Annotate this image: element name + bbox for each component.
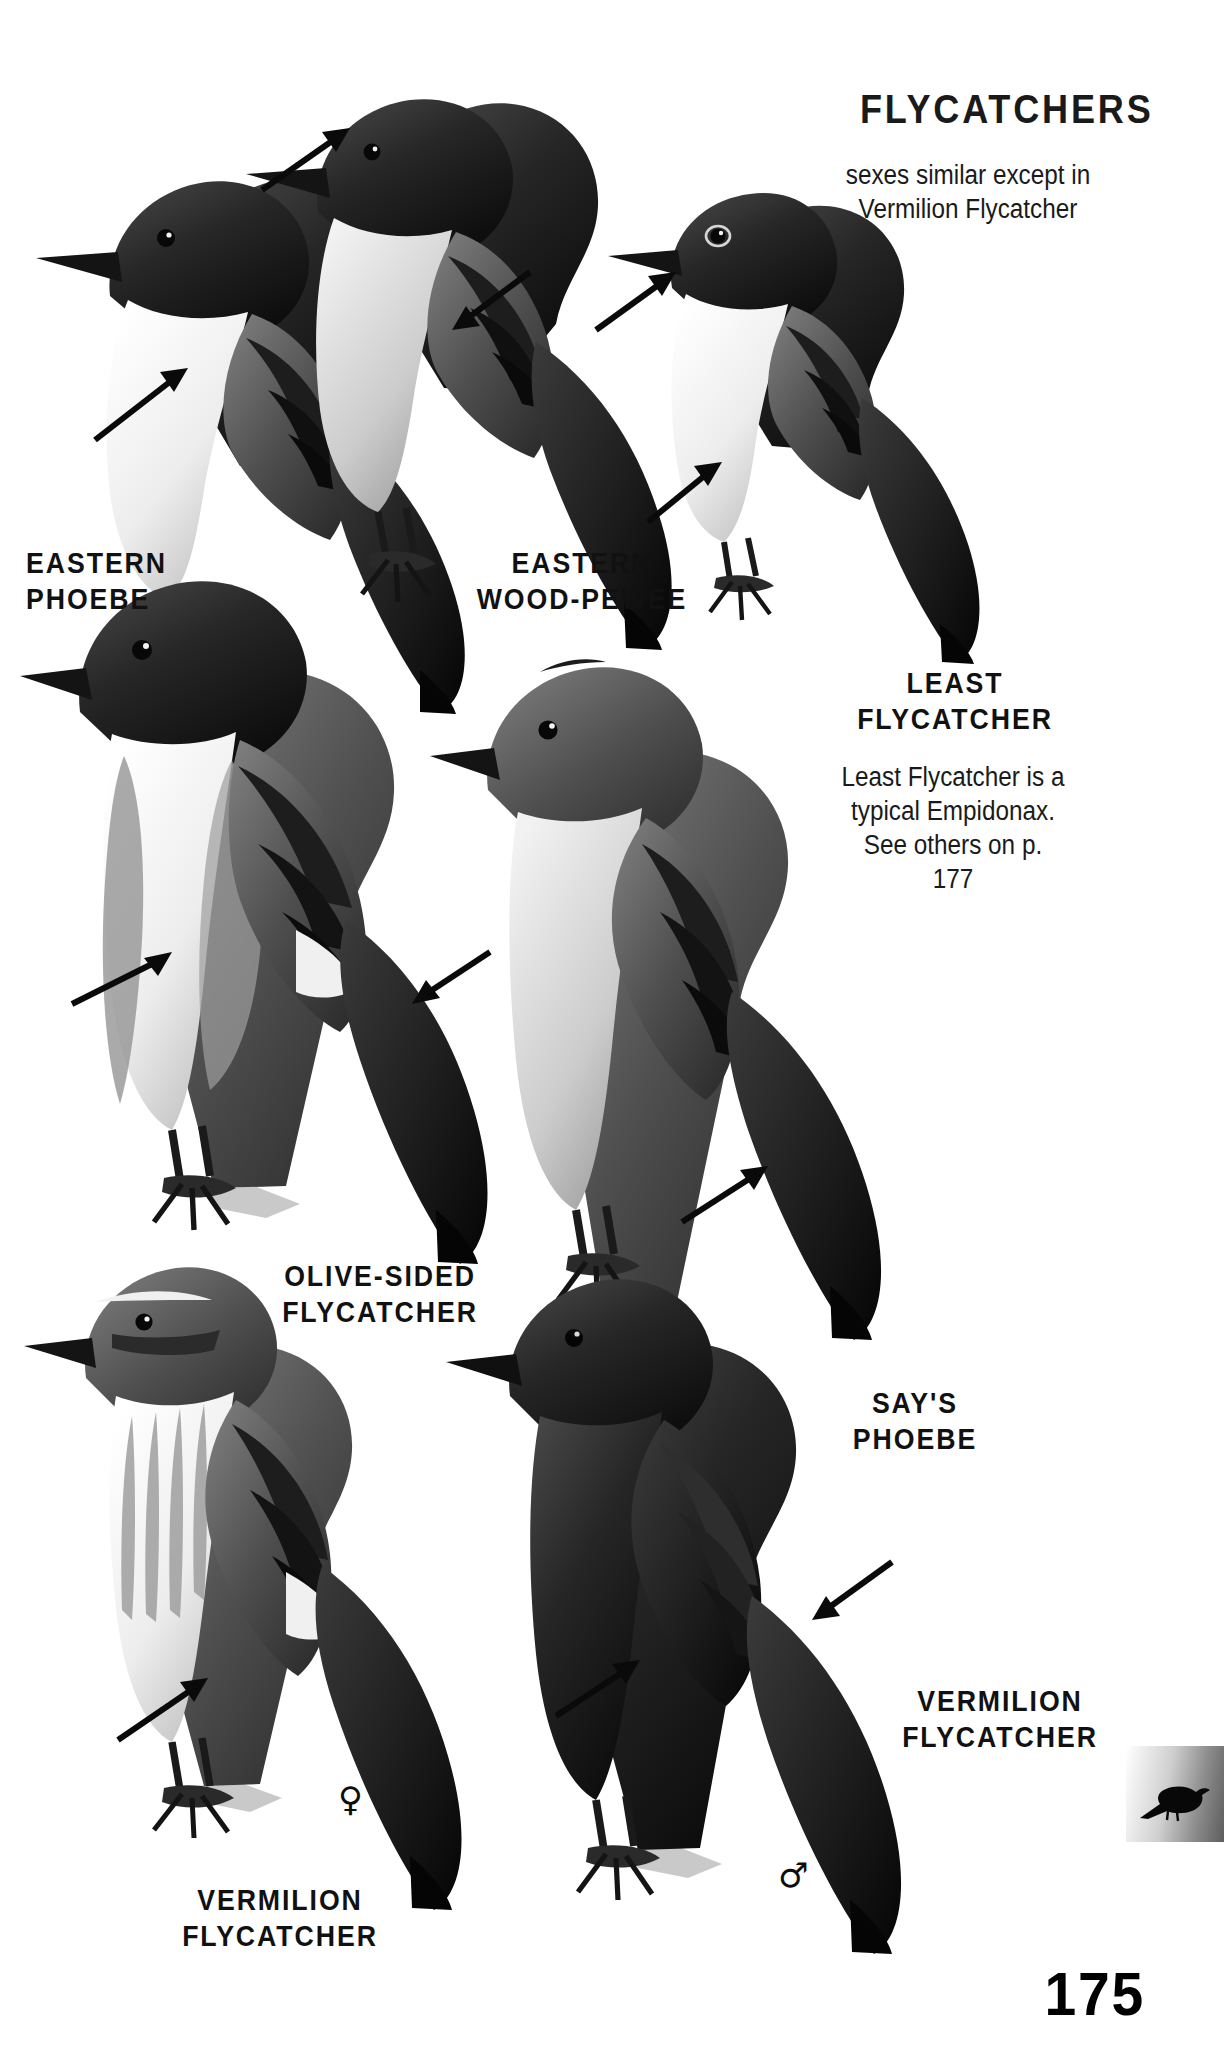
thumb-index-tab [1126, 1746, 1224, 1842]
page-title: FLYCATCHERS [860, 86, 1154, 133]
male-symbol: ♂ [778, 1858, 808, 1892]
header-note: sexes similar except in Vermilion Flycat… [833, 158, 1103, 226]
field-guide-plate: FLYCATCHERS sexes similar except in Verm… [0, 0, 1224, 2063]
pointer-olive-sided-flank [412, 952, 490, 1004]
least-flycatcher-note-line-2: typical Empidonax. [841, 794, 1066, 828]
species-label-vermilion-flycatcher-female: VERMILION FLYCATCHER [151, 1882, 409, 1954]
species-label-least-flycatcher: LEAST FLYCATCHER [840, 665, 1070, 737]
says-phoebe-illustration [430, 659, 881, 1348]
least-flycatcher-note-line-1: Least Flycatcher is a [841, 760, 1066, 794]
vermilion-flycatcher-female-illustration [24, 1267, 462, 1910]
species-label-eastern-wood-pewee: EASTERN WOOD-PEWEE [462, 545, 701, 617]
species-label-eastern-phoebe: EASTERN PHOEBE [26, 545, 210, 617]
pointer-vermilion-male-wing [812, 1562, 892, 1620]
bird-silhouette-icon [1134, 1774, 1212, 1822]
least-flycatcher-note: Least Flycatcher is a typical Empidonax.… [841, 760, 1066, 896]
page-number: 175 [1044, 1958, 1145, 2029]
header-note-line-2: Vermilion Flycatcher [833, 192, 1103, 226]
species-label-vermilion-flycatcher-male: VERMILION FLYCATCHER [890, 1683, 1111, 1755]
least-flycatcher-note-line-3: See others on p. 177 [841, 828, 1066, 896]
olive-sided-flycatcher-illustration [20, 581, 488, 1264]
species-label-says-phoebe: SAY'S PHOEBE [828, 1385, 1003, 1457]
pointer-least-flycatcher-eyering [596, 272, 676, 330]
header-note-line-1: sexes similar except in [833, 158, 1103, 192]
female-symbol: ♀ [338, 1782, 363, 1816]
species-label-olive-sided-flycatcher: OLIVE-SIDED FLYCATCHER [265, 1258, 495, 1330]
